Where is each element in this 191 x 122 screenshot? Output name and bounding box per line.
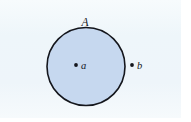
- point-a-label: a: [81, 60, 86, 71]
- point-a-dot: [74, 63, 78, 67]
- disk-A-label: A: [80, 16, 89, 28]
- point-b-label: b: [137, 60, 142, 71]
- figure-container: A a b: [0, 0, 191, 122]
- point-b-dot: [130, 63, 134, 67]
- set-diagram: A a b: [0, 0, 191, 122]
